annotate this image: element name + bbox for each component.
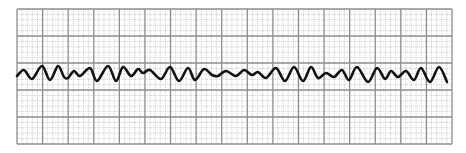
ecg-grid-paper <box>0 0 466 153</box>
ecg-rhythm-strip <box>0 0 466 153</box>
